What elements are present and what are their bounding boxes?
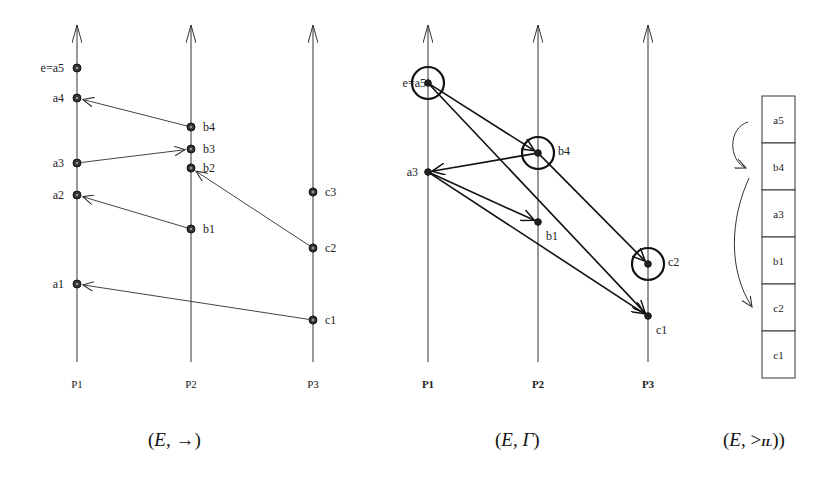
event-node-a3 xyxy=(425,169,432,176)
event-label: b3 xyxy=(203,142,215,156)
event-label: e=a5 xyxy=(403,76,426,90)
event-label: c1 xyxy=(325,313,336,327)
event-label: b1 xyxy=(203,222,215,236)
event-node-b4 xyxy=(535,150,542,157)
gamma-edge xyxy=(539,154,645,261)
caption-gamma: (E, Γ) xyxy=(495,429,540,451)
gamma-diagram: P1P2P3e=a5b4a3b1c2c1 xyxy=(403,25,680,390)
event-label: a3 xyxy=(407,165,418,179)
event-label: e=a5 xyxy=(41,61,64,75)
message-arrow xyxy=(83,99,187,126)
process-label: P1 xyxy=(422,378,434,390)
message-arrow xyxy=(83,285,309,319)
event-node-b1 xyxy=(535,219,542,226)
stack-cell-label: b1 xyxy=(773,255,784,267)
curved-arrow-a5-b4 xyxy=(733,122,748,168)
stack-cell-label: b4 xyxy=(773,161,785,173)
event-label: b4 xyxy=(558,144,570,158)
stack-cell-label: a3 xyxy=(773,208,784,220)
stack-cell-label: c1 xyxy=(773,349,783,361)
event-label: a2 xyxy=(53,188,64,202)
process-label: P2 xyxy=(185,378,197,390)
event-label: a1 xyxy=(53,277,64,291)
figure-canvas: P1P2P3e=a5a4a3a2a1b4b3b2b1c3c2c1 P1P2P3e… xyxy=(0,0,829,482)
message-arrow xyxy=(81,150,185,163)
gamma-edge xyxy=(429,84,645,313)
gamma-edge xyxy=(430,173,645,314)
caption-linear-order: (E, >IL)) xyxy=(723,429,785,451)
event-label: c3 xyxy=(325,185,336,199)
message-arrow xyxy=(83,197,187,228)
gamma-edge xyxy=(432,153,536,171)
space-time-diagram: P1P2P3e=a5a4a3a2a1b4b3b2b1c3c2c1 xyxy=(41,25,337,390)
event-label: c2 xyxy=(668,255,679,269)
event-label: b1 xyxy=(546,229,558,243)
caption-causal-order: (E, →) xyxy=(148,429,201,451)
event-node-c2 xyxy=(645,261,652,268)
process-label: P2 xyxy=(532,378,545,390)
event-node-c1 xyxy=(645,313,652,320)
event-label: c1 xyxy=(656,323,667,337)
event-label: b4 xyxy=(203,120,215,134)
process-label: P1 xyxy=(71,378,83,390)
event-label: a3 xyxy=(53,156,64,170)
curved-arrow-b4-c2 xyxy=(734,178,752,307)
event-label: c2 xyxy=(325,241,336,255)
process-label: P3 xyxy=(642,378,655,390)
stack-diagram: a5b4a3b1c2c1 xyxy=(733,96,795,378)
stack-cell-label: c2 xyxy=(773,302,783,314)
event-label: a4 xyxy=(53,91,64,105)
event-label: b2 xyxy=(203,161,215,175)
stack-cell-label: a5 xyxy=(773,114,784,126)
process-label: P3 xyxy=(307,378,319,390)
